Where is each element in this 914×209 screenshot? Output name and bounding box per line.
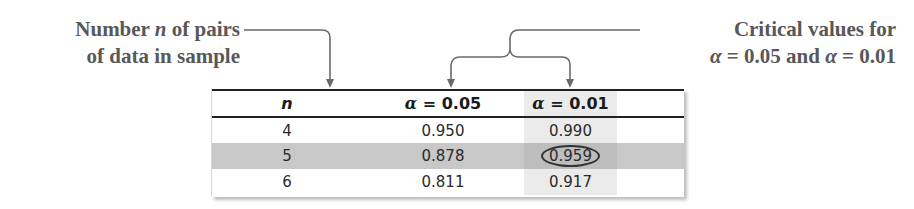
cell-n: 6 (212, 169, 362, 195)
callout-left-line1: Number n of pairs (30, 16, 240, 43)
header-alpha-005: α = 0.05 (362, 90, 524, 117)
table-header-row: n α = 0.05 α = 0.01 (212, 90, 684, 117)
header-n: n (212, 90, 362, 117)
callout-critical-values: Critical values for α = 0.05 and α = 0.0… (648, 16, 896, 70)
arrow-to-n-column (244, 30, 330, 80)
critical-values-table: n α = 0.05 α = 0.01 4 0.950 0.990 5 0.87… (212, 89, 684, 195)
callout-right-line1: Critical values for (648, 16, 896, 43)
arrowhead-icon (326, 79, 334, 88)
cell-alpha-005: 0.811 (362, 169, 524, 195)
arrowhead-icon (447, 79, 455, 88)
circled-value: 0.959 (541, 145, 600, 167)
cell-alpha-001: 0.959 (524, 143, 617, 169)
cell-alpha-001: 0.917 (524, 169, 617, 195)
table-row: 4 0.950 0.990 (212, 117, 684, 143)
header-alpha-001: α = 0.01 (524, 90, 617, 117)
callout-left-line2: of data in sample (30, 43, 240, 70)
table-row-highlighted: 5 0.878 0.959 (212, 143, 684, 169)
cell-n: 4 (212, 117, 362, 143)
brace-critical-values (451, 30, 640, 80)
cell-n: 5 (212, 143, 362, 169)
cell-alpha-005: 0.950 (362, 117, 524, 143)
callout-number-of-pairs: Number n of pairs of data in sample (30, 16, 240, 70)
critical-values-table-container: n α = 0.05 α = 0.01 4 0.950 0.990 5 0.87… (211, 89, 684, 197)
table-row: 6 0.811 0.917 (212, 169, 684, 195)
cell-alpha-005: 0.878 (362, 143, 524, 169)
cell-alpha-001: 0.990 (524, 117, 617, 143)
header-spacer (617, 90, 684, 117)
callout-right-line2: α = 0.05 and α = 0.01 (648, 43, 896, 70)
arrowhead-icon (566, 79, 574, 88)
